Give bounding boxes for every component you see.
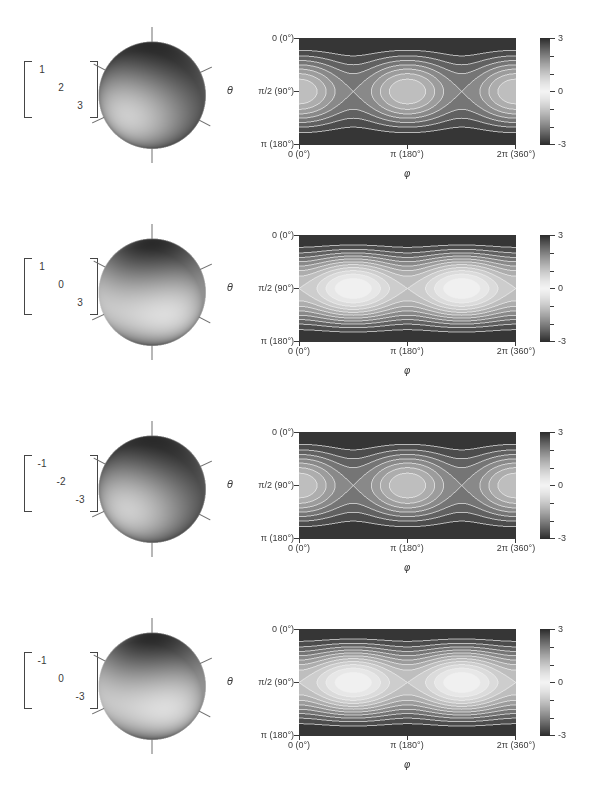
tick-mark xyxy=(550,665,554,666)
matrix-entry-11: -1 xyxy=(31,655,53,667)
colorbar-label-min: -3 xyxy=(558,336,582,347)
colorbar-label-zero: 0 xyxy=(558,677,582,688)
tick-mark xyxy=(515,342,516,346)
matrix-entry-22: -2 xyxy=(50,476,72,488)
theta-axis-label: θ xyxy=(222,85,238,96)
xtick-label-360: 2π (360°) xyxy=(482,740,550,751)
tick-mark xyxy=(294,288,299,289)
contour-plot xyxy=(299,629,516,736)
xtick-label-0: 0 (0°) xyxy=(272,149,326,160)
figure-row-4: -1 0 -3 θ 0 (0°) π/2 (90°) π (180°) 0 (0… xyxy=(0,591,592,785)
tick-mark xyxy=(299,539,300,543)
xtick-label-180: π (180°) xyxy=(380,149,434,160)
tick-mark xyxy=(550,468,554,469)
tick-mark xyxy=(550,341,555,342)
tick-mark xyxy=(550,127,554,128)
colorbar-label-zero: 0 xyxy=(558,480,582,491)
tick-mark xyxy=(550,235,555,236)
tick-mark xyxy=(550,521,554,522)
tick-mark xyxy=(294,235,299,236)
colorbar-label-max: 3 xyxy=(558,624,582,635)
xtick-label-180: π (180°) xyxy=(380,740,434,751)
tick-mark xyxy=(407,145,408,149)
tick-mark xyxy=(294,485,299,486)
figure-page: { "figure": { "rows": [ { "matrix": ["1"… xyxy=(0,0,592,785)
xtick-label-0: 0 (0°) xyxy=(272,346,326,357)
theta-axis-label: θ xyxy=(222,676,238,687)
xtick-label-180: π (180°) xyxy=(380,346,434,357)
xtick-label-0: 0 (0°) xyxy=(272,740,326,751)
ytick-label-0: 0 (0°) xyxy=(238,230,294,241)
tick-mark xyxy=(550,503,554,504)
tick-mark xyxy=(550,271,554,272)
tick-mark xyxy=(294,91,299,92)
tick-mark xyxy=(515,736,516,740)
tick-mark xyxy=(294,38,299,39)
matrix-entry-11: -1 xyxy=(31,458,53,470)
figure-row-3: -1 -2 -3 θ 0 (0°) π/2 (90°) π (180°) 0 (… xyxy=(0,394,592,591)
tick-mark xyxy=(550,109,554,110)
colorbar xyxy=(540,629,550,736)
matrix-entry-22: 0 xyxy=(50,673,72,685)
ytick-label-90: π/2 (90°) xyxy=(238,480,294,491)
colorbar-label-min: -3 xyxy=(558,730,582,741)
tick-mark xyxy=(407,342,408,346)
tick-mark xyxy=(550,700,554,701)
sphere-render xyxy=(72,610,232,762)
xtick-label-0: 0 (0°) xyxy=(272,543,326,554)
tick-mark xyxy=(294,682,299,683)
tick-mark xyxy=(407,736,408,740)
tick-mark xyxy=(550,91,555,92)
contour-plot xyxy=(299,38,516,145)
colorbar xyxy=(540,38,550,145)
sphere-render xyxy=(72,19,232,171)
tick-mark xyxy=(294,432,299,433)
tick-mark xyxy=(550,485,555,486)
colorbar-label-zero: 0 xyxy=(558,283,582,294)
xtick-label-180: π (180°) xyxy=(380,543,434,554)
tick-mark xyxy=(294,629,299,630)
tick-mark xyxy=(550,56,554,57)
phi-axis-label: φ xyxy=(399,365,415,376)
colorbar xyxy=(540,432,550,539)
ytick-label-0: 0 (0°) xyxy=(238,624,294,635)
figure-row-2: 1 0 3 θ 0 (0°) π/2 (90°) π (180°) 0 (0°)… xyxy=(0,197,592,394)
matrix-entry-11: 1 xyxy=(31,64,53,76)
phi-axis-label: φ xyxy=(399,759,415,770)
ytick-label-90: π/2 (90°) xyxy=(238,677,294,688)
phi-axis-label: φ xyxy=(399,562,415,573)
tick-mark xyxy=(550,718,554,719)
theta-axis-label: θ xyxy=(222,479,238,490)
tick-mark xyxy=(550,450,554,451)
colorbar-label-max: 3 xyxy=(558,33,582,44)
tick-mark xyxy=(407,539,408,543)
matrix-entry-22: 0 xyxy=(50,279,72,291)
figure-row-1: 1 2 3 θ 0 (0°) π/2 (90°) π (180°) 0 (0°)… xyxy=(0,0,592,197)
colorbar-label-max: 3 xyxy=(558,427,582,438)
tick-mark xyxy=(550,647,554,648)
tick-mark xyxy=(550,682,555,683)
ytick-label-90: π/2 (90°) xyxy=(238,86,294,97)
matrix-entry-11: 1 xyxy=(31,261,53,273)
tick-mark xyxy=(550,38,555,39)
tick-mark xyxy=(550,432,555,433)
tick-mark xyxy=(550,735,555,736)
xtick-label-360: 2π (360°) xyxy=(482,149,550,160)
tick-mark xyxy=(550,288,555,289)
colorbar-label-min: -3 xyxy=(558,533,582,544)
tick-mark xyxy=(550,324,554,325)
ytick-label-90: π/2 (90°) xyxy=(238,283,294,294)
xtick-label-360: 2π (360°) xyxy=(482,543,550,554)
theta-axis-label: θ xyxy=(222,282,238,293)
contour-plot xyxy=(299,235,516,342)
tick-mark xyxy=(550,74,554,75)
tick-mark xyxy=(515,145,516,149)
tick-mark xyxy=(550,144,555,145)
tick-mark xyxy=(550,629,555,630)
tick-mark xyxy=(550,306,554,307)
phi-axis-label: φ xyxy=(399,168,415,179)
sphere-render xyxy=(72,216,232,368)
xtick-label-360: 2π (360°) xyxy=(482,346,550,357)
colorbar-label-zero: 0 xyxy=(558,86,582,97)
tick-mark xyxy=(299,145,300,149)
